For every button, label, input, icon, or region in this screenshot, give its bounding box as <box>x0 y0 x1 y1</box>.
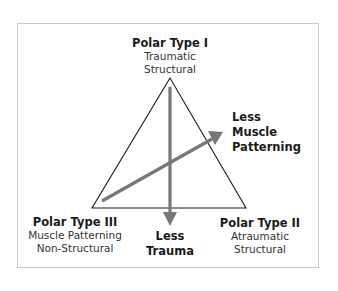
axis-label-line: Less <box>146 229 194 244</box>
vertex-line: Atraumatic <box>210 230 310 243</box>
less-muscle-patterning-arrow <box>102 131 223 201</box>
vertex-line: Non-Structural <box>25 242 125 255</box>
less-trauma-arrow <box>163 87 177 226</box>
axis-label-line: Trauma <box>146 244 194 259</box>
vertex-line: Structural <box>210 243 310 256</box>
vertex-title: Polar Type II <box>210 216 310 230</box>
vertex-polar-type-ii: Polar Type II Atraumatic Structural <box>210 216 310 256</box>
vertex-polar-type-i: Polar Type I Traumatic Structural <box>120 36 220 76</box>
vertex-polar-type-iii: Polar Type III Muscle Patterning Non-Str… <box>25 215 125 255</box>
vertex-line: Traumatic <box>120 50 220 63</box>
vertex-title: Polar Type I <box>120 36 220 50</box>
vertex-title: Polar Type III <box>25 215 125 229</box>
vertex-line: Muscle Patterning <box>25 229 125 242</box>
less-muscle-patterning-label: Less Muscle Patterning <box>232 110 301 155</box>
vertex-line: Structural <box>120 63 220 76</box>
axis-label-line: Muscle <box>232 125 301 140</box>
axis-label-line: Patterning <box>232 140 301 155</box>
less-trauma-label: Less Trauma <box>146 229 194 259</box>
axis-label-line: Less <box>232 110 301 125</box>
